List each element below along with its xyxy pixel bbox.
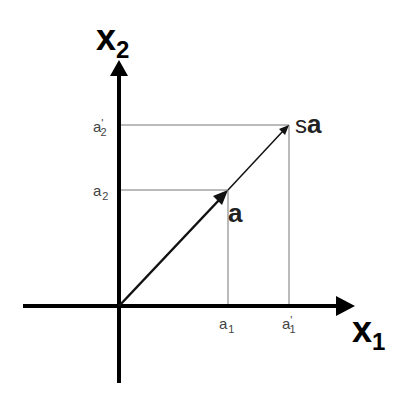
x2-axis-label: x2 [96,17,129,63]
vector-a [119,190,228,306]
tick-a1: a1 [219,315,234,335]
vector-sa [228,125,289,190]
vector-diagram: x2 x1 a sa a'2 a2 a1 a'1 [0,0,410,400]
tick-a2-prime: a'2 [93,117,107,138]
axes [23,60,355,383]
x1-axis-label: x1 [352,309,385,355]
vector-a-label: a [228,198,243,228]
vector-sa-label: sa [295,109,322,139]
tick-a2: a2 [93,182,108,202]
tick-a1-prime: a'1 [282,314,296,335]
